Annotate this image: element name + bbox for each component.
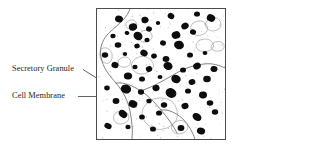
secretory-granule: [117, 108, 128, 119]
speckle: [152, 92, 153, 93]
secretory-granule: [124, 73, 132, 80]
secretory-granule: [102, 52, 108, 58]
speckle: [126, 103, 127, 104]
speckle: [131, 42, 132, 43]
secretory-granule: [146, 26, 153, 32]
speckle: [217, 37, 218, 38]
speckle: [118, 9, 119, 10]
speckle: [180, 37, 181, 38]
speckle: [196, 58, 197, 59]
speckle: [151, 20, 152, 21]
speckle: [172, 86, 173, 87]
speckle: [138, 135, 139, 136]
speckle: [181, 40, 182, 41]
secretory-granule: [139, 115, 145, 120]
speckle: [213, 128, 214, 129]
secretory-granule: [192, 61, 202, 70]
speckle: [185, 119, 186, 120]
secretory-granules: [102, 11, 218, 135]
secretory-granule: [144, 38, 149, 42]
speckle: [173, 130, 174, 131]
speckle: [146, 64, 147, 65]
speckle: [182, 111, 183, 112]
speckle: [97, 58, 98, 59]
speckle: [108, 40, 109, 41]
speckle: [135, 30, 136, 31]
speckle: [197, 123, 198, 124]
speckle: [166, 70, 167, 71]
speckle: [220, 102, 221, 103]
speckle: [155, 106, 156, 107]
speckle: [156, 71, 157, 72]
speckle: [219, 93, 220, 94]
background-speckles: [97, 9, 225, 139]
speckle: [216, 108, 217, 109]
secretory-granule: [150, 126, 156, 131]
speckle: [114, 112, 115, 113]
speckle: [142, 101, 143, 102]
speckle: [132, 90, 133, 91]
secretory-granule: [181, 102, 189, 110]
speckle: [151, 125, 152, 126]
speckle: [166, 31, 167, 32]
speckle: [153, 48, 154, 49]
secretory-granule: [138, 89, 144, 94]
speckle: [139, 15, 140, 16]
speckle: [139, 100, 140, 101]
speckle: [162, 99, 163, 100]
speckle: [154, 70, 155, 71]
speckle: [153, 12, 154, 13]
speckle: [223, 15, 224, 16]
speckle: [210, 97, 211, 98]
speckle: [222, 91, 223, 92]
speckle: [140, 18, 141, 19]
speckle: [111, 57, 112, 58]
speckle: [199, 39, 200, 40]
secretory-granule: [124, 30, 130, 35]
speckle: [219, 25, 220, 26]
speckle: [155, 21, 156, 22]
speckle: [146, 99, 147, 100]
speckle: [104, 129, 105, 130]
speckle: [195, 38, 196, 39]
secretory-granule: [125, 125, 130, 129]
secretory-granule: [171, 30, 182, 40]
speckle: [155, 105, 156, 106]
speckle: [98, 53, 99, 54]
speckle: [201, 31, 202, 32]
speckle: [166, 46, 167, 47]
secretory-granule: [167, 12, 176, 21]
speckle: [147, 9, 148, 10]
secretory-granule: [113, 98, 120, 104]
speckle: [222, 113, 223, 114]
speckle: [220, 48, 221, 49]
secretory-granule: [203, 76, 211, 82]
secretory-granule: [141, 16, 149, 24]
secretory-granule: [180, 67, 186, 72]
speckle: [205, 124, 206, 125]
speckle: [209, 107, 210, 108]
speckle: [207, 35, 208, 36]
speckle: [142, 46, 143, 47]
secretory-granule: [110, 34, 115, 39]
speckle: [164, 76, 165, 77]
secretory-granule: [187, 52, 193, 57]
speckle: [160, 26, 161, 27]
speckle: [197, 50, 198, 51]
speckle: [106, 130, 107, 131]
speckle: [200, 71, 201, 72]
speckle: [224, 89, 225, 90]
speckle: [102, 137, 103, 138]
speckle: [157, 135, 158, 136]
speckle: [221, 112, 222, 113]
secretory-granule: [152, 84, 161, 92]
speckle: [137, 119, 138, 120]
speckle: [194, 50, 195, 51]
speckle: [139, 98, 140, 99]
speckle: [176, 70, 177, 71]
speckle: [205, 110, 206, 111]
speckle: [117, 119, 118, 120]
speckle: [161, 132, 162, 133]
secretory-granule: [162, 61, 173, 71]
speckle: [157, 104, 158, 105]
